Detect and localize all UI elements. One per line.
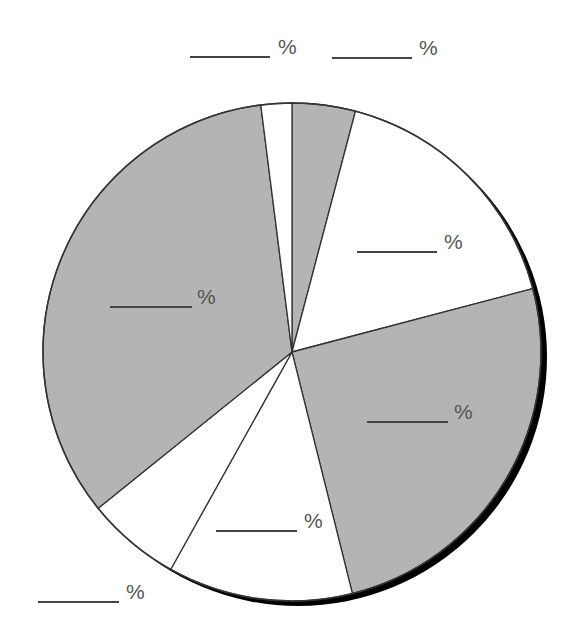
percent-sign-5: % <box>454 400 473 423</box>
percent-sign-1: % <box>278 35 297 58</box>
percent-sign-6: % <box>304 509 323 532</box>
pie-chart: %%%%%%% <box>0 0 576 642</box>
percent-sign-7: % <box>126 580 145 603</box>
percent-sign-3: % <box>444 230 463 253</box>
percent-sign-2: % <box>419 36 438 59</box>
percent-sign-4: % <box>197 285 216 308</box>
pie-slices <box>43 103 541 601</box>
